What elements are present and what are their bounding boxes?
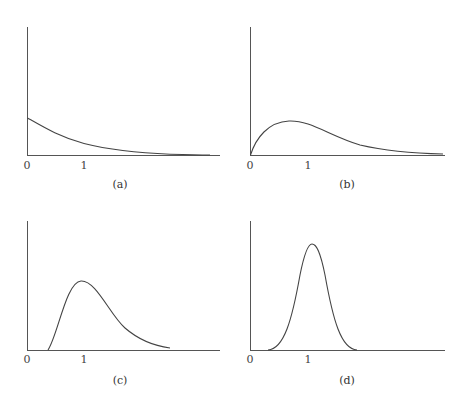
panel-d-caption: (d) xyxy=(339,375,355,386)
figure-canvas xyxy=(0,0,471,409)
panel-c-curve xyxy=(48,281,170,350)
panel-d-axes xyxy=(250,221,445,351)
panel-b-curve xyxy=(251,121,444,155)
panel-d-tick-1: 1 xyxy=(305,354,312,365)
panel-c-caption: (c) xyxy=(113,375,128,386)
panel-b-tick-1: 1 xyxy=(305,160,312,171)
panel-a-curve xyxy=(28,118,211,155)
panel-a-tick-0: 0 xyxy=(24,160,31,171)
panel-d-curve xyxy=(268,244,357,350)
panel-a-axes xyxy=(27,27,220,156)
panel-b-tick-0: 0 xyxy=(247,160,254,171)
panel-a-tick-1: 1 xyxy=(81,160,88,171)
panel-a-caption: (a) xyxy=(112,179,127,190)
panel-c-tick-0: 0 xyxy=(24,354,31,365)
panel-b-axes xyxy=(250,27,445,156)
panel-c-tick-1: 1 xyxy=(81,354,88,365)
panel-b-caption: (b) xyxy=(339,179,355,190)
panel-d-tick-0: 0 xyxy=(247,354,254,365)
